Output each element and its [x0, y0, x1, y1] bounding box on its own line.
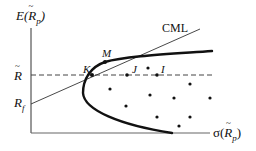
asset-dots — [108, 66, 211, 127]
point-k-label: K — [82, 63, 91, 75]
cml-label: CML — [162, 21, 188, 35]
asset-dot — [148, 93, 151, 96]
tilde-icon: ~ — [15, 61, 20, 71]
tilde-icon: ~ — [29, 1, 34, 11]
asset-dot — [172, 96, 175, 99]
r-bar-label: R ~ — [13, 61, 22, 83]
efficient-frontier-diagram: E(Rp) ~ σ(Rp) ~ R ~ Rf CML K M J I — [0, 0, 256, 151]
point-j-label: J — [132, 63, 138, 75]
point-j — [125, 73, 129, 77]
asset-dot — [177, 124, 180, 127]
risk-free-label: Rf — [13, 95, 26, 113]
asset-dot — [146, 66, 149, 69]
asset-dot — [208, 96, 211, 99]
asset-dot — [188, 115, 191, 118]
point-m — [103, 60, 107, 64]
y-axis-label: E(Rp) ~ — [15, 1, 45, 26]
point-i — [155, 73, 159, 77]
point-k — [90, 73, 94, 77]
asset-dot — [155, 115, 158, 118]
asset-dot — [124, 104, 127, 107]
asset-dot — [108, 87, 111, 90]
x-axis-label: σ(Rp) ~ — [213, 118, 241, 143]
capital-market-line — [31, 29, 200, 104]
point-m-label: M — [101, 47, 112, 59]
asset-dot — [188, 82, 191, 85]
tilde-icon: ~ — [226, 118, 231, 128]
efficient-frontier-curve — [83, 51, 212, 133]
point-i-label: I — [160, 63, 166, 75]
